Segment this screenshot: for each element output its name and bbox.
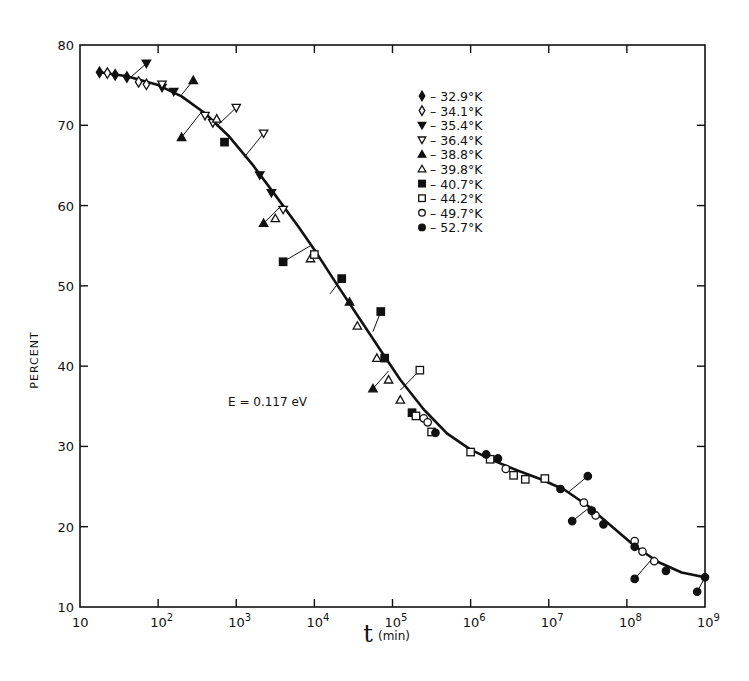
legend-item: – 49.7°K	[419, 206, 484, 221]
data-point	[396, 396, 404, 403]
data-point	[631, 543, 638, 550]
filled-triangle-down-icon	[418, 122, 426, 129]
y-tick-label: 80	[57, 38, 74, 53]
legend-label: – 39.8°K	[430, 162, 483, 177]
legend-label: – 32.9°K	[430, 89, 483, 104]
data-point	[271, 214, 279, 221]
legend-label: – 35.4°K	[430, 118, 483, 133]
data-point	[568, 517, 575, 524]
data-points	[96, 60, 708, 595]
data-point	[510, 472, 517, 479]
series-32.9K	[96, 67, 130, 82]
series-38.8K	[177, 76, 377, 392]
x-tick-label: 107	[541, 612, 564, 630]
data-point	[112, 70, 118, 80]
data-point	[279, 258, 286, 265]
data-point	[416, 366, 423, 373]
x-tick-label: 103	[228, 612, 251, 630]
series-39.8K	[213, 115, 405, 403]
data-point	[584, 472, 591, 479]
series-49.7K	[420, 415, 658, 565]
legend-item: – 44.2°K	[419, 191, 484, 206]
legend-label: – 38.8°K	[430, 147, 483, 162]
data-point	[213, 115, 221, 122]
legend-label: – 34.1°K	[430, 104, 483, 119]
y-tick-label: 40	[57, 359, 74, 374]
open-square-icon	[419, 195, 426, 202]
open-triangle-up-icon	[418, 165, 426, 172]
legend-item: – 34.1°K	[419, 104, 483, 119]
data-point	[557, 485, 564, 492]
x-axis-unit: (min)	[378, 629, 410, 643]
data-point	[651, 558, 658, 565]
plot-frame	[80, 45, 705, 607]
data-point	[701, 574, 708, 581]
data-point	[662, 567, 669, 574]
x-tick-label: 104	[306, 612, 329, 630]
chart: 10102103104105106107108109 1020304050607…	[0, 0, 749, 681]
data-point	[502, 465, 509, 472]
data-point	[221, 138, 228, 145]
data-point	[424, 419, 431, 426]
y-tick-label: 60	[57, 199, 74, 214]
x-axis-symbol: t	[363, 620, 373, 648]
series-40.7K	[221, 138, 416, 416]
data-point	[373, 354, 381, 361]
data-point	[541, 475, 548, 482]
data-point	[494, 455, 501, 462]
filled-square-icon	[419, 180, 426, 187]
x-tick-label: 106	[463, 612, 486, 630]
data-point	[104, 68, 110, 78]
data-point	[588, 507, 595, 514]
legend: – 32.9°K– 34.1°K– 35.4°K– 36.4°K– 38.8°K…	[418, 89, 483, 235]
data-point	[483, 451, 490, 458]
legend-item: – 40.7°K	[419, 177, 484, 192]
legend-label: – 40.7°K	[430, 177, 483, 192]
data-point	[522, 476, 529, 483]
x-tick-label: 108	[619, 612, 642, 630]
data-point	[189, 76, 197, 83]
filled-diamond-icon	[419, 91, 425, 101]
x-tick-label: 105	[385, 612, 408, 630]
x-tick-label: 10	[72, 615, 89, 630]
legend-label: – 52.7°K	[430, 220, 483, 235]
x-tick-label: 109	[697, 612, 720, 630]
y-tick-label: 20	[57, 520, 74, 535]
data-point	[600, 521, 607, 528]
legend-label: – 44.2°K	[430, 191, 483, 206]
data-point	[432, 429, 439, 436]
data-point	[467, 448, 474, 455]
y-tick-label: 10	[57, 600, 74, 615]
legend-item: – 38.8°K	[418, 147, 483, 162]
filled-triangle-up-icon	[418, 151, 426, 158]
data-point	[311, 251, 318, 258]
data-point	[693, 588, 700, 595]
x-axis-ticks: 10102103104105106107108109	[72, 45, 720, 630]
data-point	[96, 67, 102, 77]
open-circle-icon	[419, 210, 426, 217]
x-tick-label: 102	[150, 612, 173, 630]
filled-circle-icon	[419, 224, 426, 231]
series-36.4K	[158, 81, 287, 214]
legend-item: – 35.4°K	[418, 118, 483, 133]
y-axis-ticks: 1020304050607080	[57, 38, 705, 615]
data-point	[384, 376, 392, 383]
legend-item: – 36.4°K	[418, 133, 483, 148]
legend-item: – 32.9°K	[419, 89, 483, 104]
data-point	[381, 354, 388, 361]
data-point	[580, 499, 587, 506]
legend-label: – 36.4°K	[430, 133, 483, 148]
legend-label: – 49.7°K	[430, 206, 483, 221]
legend-item: – 52.7°K	[419, 220, 484, 235]
data-point	[377, 308, 384, 315]
open-triangle-down-icon	[418, 137, 426, 144]
y-tick-label: 70	[57, 118, 74, 133]
data-point	[353, 322, 361, 329]
legend-item: – 39.8°K	[418, 162, 483, 177]
activation-energy-annotation: E = 0.117 eV	[228, 395, 308, 409]
offset-links	[131, 63, 705, 591]
series-44.2K	[311, 251, 549, 483]
fit-curve	[100, 72, 702, 576]
data-point	[412, 412, 419, 419]
y-axis-title: PERCENT	[28, 331, 41, 388]
